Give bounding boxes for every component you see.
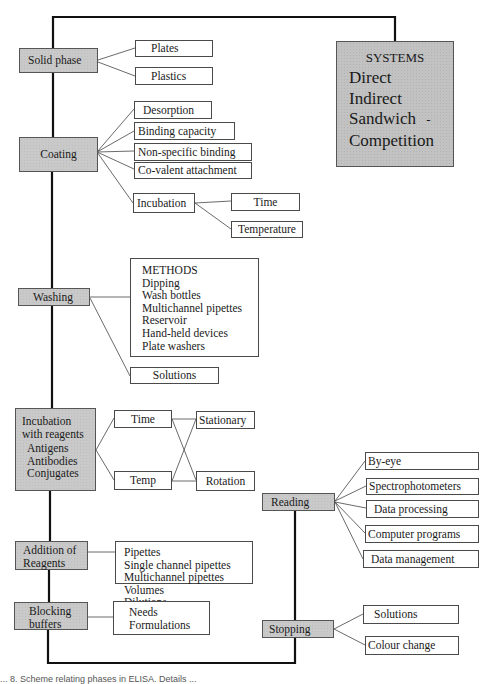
node-non-specific-binding: Non-specific binding <box>134 143 252 161</box>
stage-addition-of-reagents: Addition of Reagents <box>15 541 88 570</box>
washing-methods-box: METHODS Dipping Wash bottles Multichanne… <box>130 258 259 357</box>
method-item: Dipping <box>142 277 180 290</box>
method-item: Hand-held devices <box>142 327 228 340</box>
stage-incubation-with-reagents: Incubation with reagents Antigens Antibo… <box>15 408 96 491</box>
systems-title: SYSTEMS <box>349 50 453 66</box>
blocking-item: Needs <box>129 606 158 619</box>
stage-reading: Reading <box>262 493 335 511</box>
node-spectrophotometers: Spectrophotometers <box>366 478 479 495</box>
node-co-valent-attachment: Co-valent attachment <box>134 162 252 179</box>
addition-item: Volumes <box>124 584 164 597</box>
stage-blocking-buffers: Blocking buffers <box>14 602 88 630</box>
node-computer-programs: Computer programs <box>365 525 479 543</box>
stage-label-line: Addition of <box>23 544 76 557</box>
stage-label-line: Blocking <box>29 605 71 618</box>
method-item: Plate washers <box>142 340 205 353</box>
stage-label-line: with reagents <box>22 428 84 441</box>
node-plates: Plates <box>135 40 213 57</box>
node-incubation-temperature: Temperature <box>231 221 303 238</box>
addition-item: Pipettes <box>124 546 160 559</box>
stage-label-line: Reagents <box>23 557 65 570</box>
reagent-antigens: Antigens <box>22 442 69 455</box>
system-competition: Competition <box>349 131 453 152</box>
stage-solid-phase: Solid phase <box>19 48 98 73</box>
node-data-processing: Data processing <box>366 500 479 518</box>
systems-dash: - <box>426 112 430 127</box>
node-desorption: Desorption <box>134 101 212 119</box>
node-incubation: Incubation <box>133 193 195 213</box>
addition-item: Single channel pipettes <box>124 559 231 572</box>
system-direct: Direct <box>349 68 453 89</box>
node-reagent-temp: Temp <box>114 471 172 490</box>
node-stationary: Stationary <box>196 411 255 429</box>
stage-solid-phase-label: Solid phase <box>24 54 81 67</box>
blocking-item: Formulations <box>129 619 190 632</box>
node-incubation-time: Time <box>231 193 300 211</box>
system-sandwich: Sandwich - <box>349 109 453 131</box>
node-data-management: Data management <box>363 550 479 568</box>
addition-details-box: Pipettes Single channel pipettes Multich… <box>115 541 253 584</box>
methods-heading: METHODS <box>142 264 198 277</box>
addition-item: Multichannel pipettes <box>124 571 224 584</box>
stage-washing: Washing <box>18 288 90 306</box>
method-item: Wash bottles <box>142 289 201 302</box>
node-colour-change: Colour change <box>365 636 459 655</box>
reagent-antibodies: Antibodies <box>22 455 77 468</box>
node-by-eye: By-eye <box>365 452 479 470</box>
node-stopping-solutions: Solutions <box>363 605 459 624</box>
method-item: Multichannel pipettes <box>142 302 242 315</box>
system-indirect: Indirect <box>349 89 453 110</box>
stage-stopping: Stopping <box>262 620 334 638</box>
system-sandwich-label: Sandwich <box>349 109 416 128</box>
node-binding-capacity: Binding capacity <box>134 122 235 140</box>
node-plastics: Plastics <box>135 67 213 85</box>
reagent-conjugates: Conjugates <box>22 467 79 480</box>
stage-label-line: Incubation <box>22 415 71 428</box>
node-reagent-time: Time <box>114 410 172 428</box>
node-washing-solutions: Solutions <box>130 367 219 384</box>
method-item: Reservoir <box>142 314 187 327</box>
stage-coating: Coating <box>19 137 98 172</box>
stage-label-line: buffers <box>29 618 61 631</box>
figure-caption: ... 8. Scheme relating phases in ELISA. … <box>0 674 197 684</box>
node-rotation: Rotation <box>196 471 255 491</box>
systems-box: SYSTEMS Direct Indirect Sandwich - Compe… <box>336 41 454 167</box>
blocking-details-box: Needs Formulations <box>113 601 210 635</box>
